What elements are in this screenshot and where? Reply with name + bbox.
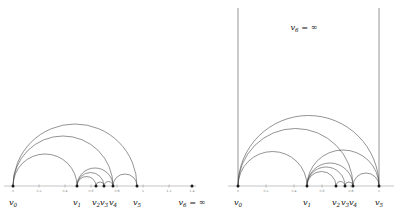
vertex-dot-v5 — [378, 185, 381, 188]
vertex-label-v1: v1 — [303, 197, 311, 208]
infinity-annotation-label: v6 = ∞ — [290, 22, 317, 33]
axis-tick-label: 1 — [378, 189, 380, 193]
arc-v0-v5 — [13, 124, 137, 186]
axis-tick-label: 0.8 — [349, 189, 354, 193]
vertex-label-v2: v2 — [332, 197, 341, 208]
axis-tick-label: 0.6 — [89, 189, 94, 193]
vertex-label-v5: v5 — [375, 197, 384, 208]
vertex-dot-v3 — [103, 185, 106, 188]
vertex-label-v0: v0 — [234, 197, 243, 208]
arc-v4-v5 — [353, 173, 379, 186]
infinity-vertex-label: v6 = ∞ — [178, 197, 205, 208]
arc-v0-v1 — [238, 152, 307, 187]
vertex-dot-v4 — [352, 185, 355, 188]
axis-tick-label: 0.2 — [37, 189, 42, 193]
arc-v0-v4 — [238, 128, 353, 186]
vertex-dot-v6 — [191, 185, 194, 188]
geodesic-figure: 00.20.40.60.811.21.4v0v1v2v3v4v5v6 = ∞00… — [0, 0, 396, 222]
left-diagram: 00.20.40.60.811.21.4v0v1v2v3v4v5v6 = ∞ — [4, 124, 206, 208]
right-diagram: 00.20.40.60.81v0v1v2v3v4v5v6 = ∞ — [228, 8, 394, 208]
arc-v0-v4 — [13, 136, 113, 186]
vertex-label-v5: v5 — [133, 197, 142, 208]
vertex-dot-v2 — [95, 185, 98, 188]
axis-tick-label: 1 — [142, 189, 144, 193]
axis-tick-label: 0.4 — [63, 189, 68, 193]
vertex-dot-v1 — [76, 185, 79, 188]
axis-tick-label: 0 — [237, 189, 239, 193]
vertex-label-v1: v1 — [73, 197, 81, 208]
arc-v0-v1 — [13, 154, 77, 186]
vertex-label-v0: v0 — [9, 197, 18, 208]
vertex-dot-v4 — [112, 185, 115, 188]
vertex-dot-v0 — [237, 185, 240, 188]
vertex-dot-v5 — [136, 185, 139, 188]
axis-tick-label: 0.8 — [115, 189, 120, 193]
vertex-label-v4: v4 — [349, 197, 358, 208]
vertex-dot-v2 — [335, 185, 338, 188]
arc-v1-v4 — [77, 168, 113, 186]
vertex-label-v4: v4 — [109, 197, 118, 208]
vertex-dot-v0 — [12, 185, 15, 188]
vertex-dot-v1 — [306, 185, 309, 188]
vertex-label-v3: v3 — [100, 197, 109, 208]
axis-tick-label: 0.2 — [264, 189, 269, 193]
arc-v1-v5 — [307, 150, 379, 186]
arc-v3-v4 — [104, 182, 113, 187]
axis-tick-label: 1.4 — [190, 189, 195, 193]
figure-canvas: 00.20.40.60.811.21.4v0v1v2v3v4v5v6 = ∞00… — [0, 0, 396, 222]
axis-tick-label: 0.4 — [292, 189, 297, 193]
axis-tick-label: 1.2 — [167, 189, 172, 193]
arc-v4-v5 — [113, 174, 137, 186]
axis-tick-label: 0.6 — [320, 189, 325, 193]
arc-v1-v3 — [307, 167, 345, 186]
axis-tick-label: 0 — [12, 189, 14, 193]
vertex-dot-v3 — [344, 185, 347, 188]
arc-v2-v3 — [336, 182, 345, 187]
